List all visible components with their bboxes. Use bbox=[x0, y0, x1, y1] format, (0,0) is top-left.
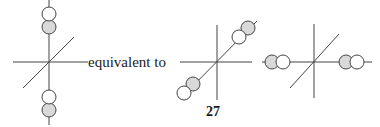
lobe-top-open bbox=[42, 7, 56, 21]
lobe-bottom-filled bbox=[42, 103, 56, 117]
diagram-diagonal-orbital bbox=[177, 21, 257, 100]
lobe-top-filled bbox=[42, 20, 56, 34]
lobe-bottom-open bbox=[42, 90, 56, 104]
lobe-left-open bbox=[276, 55, 290, 69]
equivalence-label: equivalent to bbox=[88, 54, 166, 71]
orbital-diagrams bbox=[0, 0, 380, 127]
lobe-lower-open bbox=[177, 86, 191, 100]
diagram-vertical-orbital bbox=[13, 0, 88, 125]
page-number: 27 bbox=[206, 104, 220, 120]
diagram-horizontal-orbital bbox=[262, 24, 372, 98]
lobe-upper-open bbox=[232, 30, 246, 44]
lobe-right-open bbox=[350, 55, 364, 69]
